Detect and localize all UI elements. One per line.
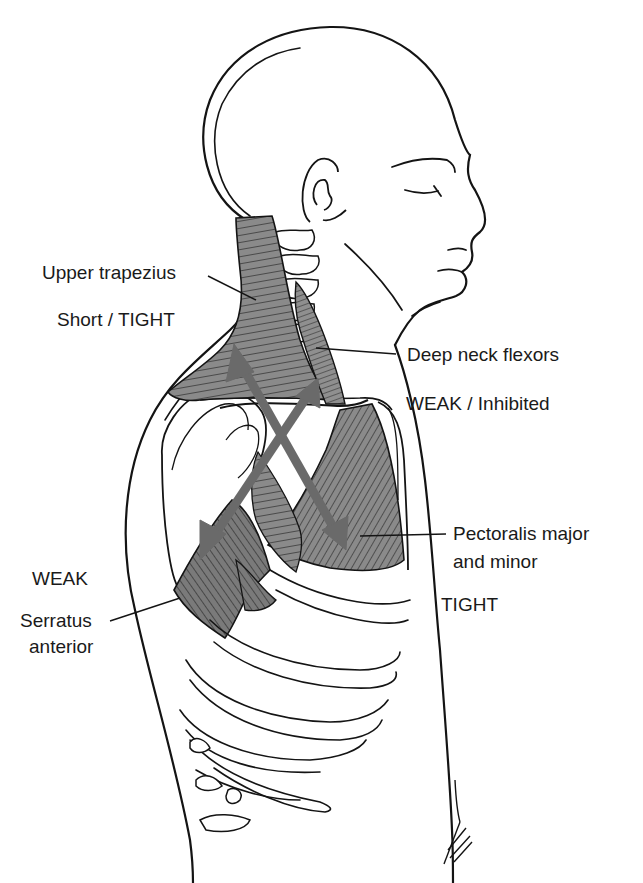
label-pectoralis-line2: and minor [453, 551, 538, 573]
leader-serratus [110, 598, 180, 621]
eye-closed-icon [392, 159, 455, 196]
label-deep-neck-flexors: Deep neck flexors [407, 344, 559, 366]
label-serratus-line2: anterior [29, 636, 93, 658]
artist-signature [444, 780, 472, 864]
label-deep-neck-flexors-state: WEAK / Inhibited [406, 393, 550, 415]
anatomy-illustration [0, 0, 643, 883]
anatomy-figure: Upper trapezius Short / TIGHT Deep neck … [0, 0, 643, 883]
label-pectoralis-line1: Pectoralis major [453, 523, 589, 545]
label-pectoralis-state: TIGHT [441, 594, 498, 616]
label-upper-trapezius: Upper trapezius [42, 262, 176, 284]
label-upper-trapezius-state: Short / TIGHT [57, 309, 175, 331]
label-serratus-line1: Serratus [20, 610, 92, 632]
ear-icon [302, 159, 346, 222]
label-serratus-state: WEAK [32, 568, 88, 590]
face-features [345, 244, 466, 316]
